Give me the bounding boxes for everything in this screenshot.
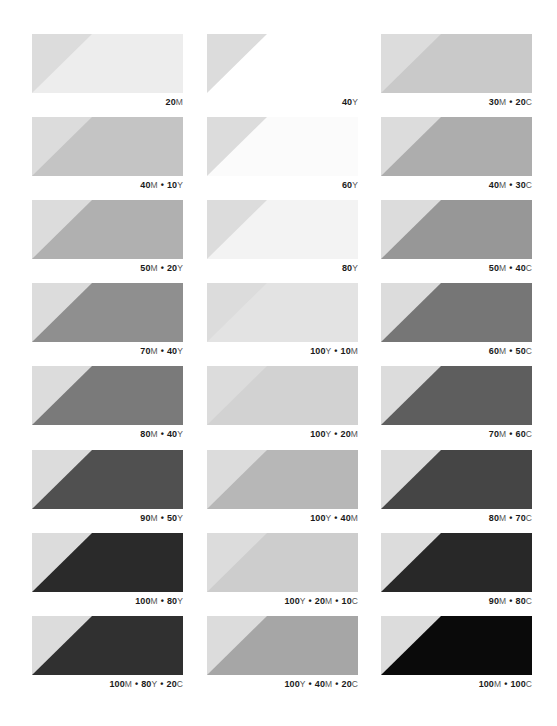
separator-bullet: • [509,346,512,356]
ink-letter: C [526,429,532,439]
ink-percent: 20 [315,596,325,606]
ink-percent: 30 [516,180,526,190]
swatch-label: 100M•80Y [135,596,183,607]
ink-letter: M [499,97,506,107]
separator-bullet: • [509,263,512,273]
swatch-cell: 70M•40Y [32,283,183,363]
tint-swatch [207,616,358,675]
swatch-label: 70M•60C [489,429,532,440]
ink-letter: Y [177,346,183,356]
ink-percent: 30 [489,97,499,107]
ink-percent: 10 [342,596,352,606]
swatch-label: 90M•50Y [140,513,183,524]
ink-percent: 20 [166,97,176,107]
separator-bullet: • [509,429,512,439]
ink-percent: 40 [167,346,177,356]
ink-letter: Y [177,596,183,606]
swatch-label: 100Y•40M [310,513,358,524]
swatch-cell: 80M•70C [381,450,532,530]
tint-swatch [381,283,532,342]
tint-swatch [381,117,532,176]
ink-letter: Y [177,180,183,190]
tint-swatch [32,34,183,93]
ink-letter: C [352,596,358,606]
ink-letter: Y [300,596,306,606]
separator-bullet: • [161,596,164,606]
swatch-cell: 100Y•20M [207,366,358,446]
separator-bullet: • [135,679,138,689]
ink-letter: C [526,346,532,356]
tint-swatch [381,450,532,509]
swatch-cell: 30M•20C [381,34,532,114]
tint-swatch [32,616,183,675]
ink-letter: M [499,346,506,356]
ink-letter: M [494,679,501,689]
ink-percent: 40 [342,97,352,107]
ink-percent: 100 [310,513,325,523]
tint-swatch-grid: 20M40M•10Y50M•20Y70M•40Y80M•40Y90M•50Y10… [0,0,557,726]
ink-percent: 80 [342,263,352,273]
separator-bullet: • [509,513,512,523]
ink-percent: 100 [510,679,525,689]
swatch-cell: 80Y [207,200,358,280]
ink-letter: M [499,429,506,439]
ink-percent: 80 [140,429,150,439]
ink-percent: 40 [167,429,177,439]
ink-percent: 20 [516,97,526,107]
swatch-cell: 60Y [207,117,358,197]
ink-letter: C [526,596,532,606]
ink-letter: M [325,679,332,689]
tint-swatch [381,34,532,93]
swatch-cell: 100Y•40M [207,450,358,530]
separator-bullet: • [161,180,164,190]
ink-percent: 20 [342,679,352,689]
swatch-label: 50M•40C [489,263,532,274]
ink-percent: 10 [341,346,351,356]
tint-swatch [32,533,183,592]
ink-letter: M [499,263,506,273]
ink-letter: Y [151,679,157,689]
tint-swatch [207,450,358,509]
ink-percent: 60 [516,429,526,439]
separator-bullet: • [309,596,312,606]
ink-letter: M [176,97,183,107]
separator-bullet: • [334,346,337,356]
swatch-cell: 70M•60C [381,366,532,446]
ink-letter: Y [352,97,358,107]
separator-bullet: • [160,679,163,689]
swatch-cell: 100M•80Y•20C [32,616,183,696]
ink-percent: 100 [109,679,124,689]
ink-letter: C [526,513,532,523]
swatch-label: 100Y•20M [310,429,358,440]
separator-bullet: • [334,513,337,523]
ink-letter: M [499,180,506,190]
ink-percent: 20 [341,429,351,439]
ink-letter: Y [300,679,306,689]
ink-percent: 40 [315,679,325,689]
ink-letter: Y [177,513,183,523]
ink-percent: 90 [489,596,499,606]
ink-percent: 50 [167,513,177,523]
ink-letter: C [177,679,183,689]
swatch-cell: 80M•40Y [32,366,183,446]
separator-bullet: • [509,180,512,190]
ink-percent: 70 [140,346,150,356]
ink-letter: Y [177,263,183,273]
swatch-label: 80Y [342,263,358,274]
ink-percent: 100 [284,679,299,689]
swatch-label: 100Y•40M•20C [284,679,358,690]
ink-letter: M [151,180,158,190]
swatch-cell: 20M [32,34,183,114]
swatch-cell: 50M•20Y [32,200,183,280]
ink-percent: 50 [516,346,526,356]
swatch-cell: 100M•100C [381,616,532,696]
ink-percent: 100 [310,346,325,356]
ink-letter: M [151,263,158,273]
ink-letter: M [325,596,332,606]
ink-percent: 80 [167,596,177,606]
ink-percent: 80 [489,513,499,523]
ink-percent: 20 [167,679,177,689]
swatch-cell: 90M•50Y [32,450,183,530]
ink-letter: Y [326,346,332,356]
ink-percent: 50 [140,263,150,273]
